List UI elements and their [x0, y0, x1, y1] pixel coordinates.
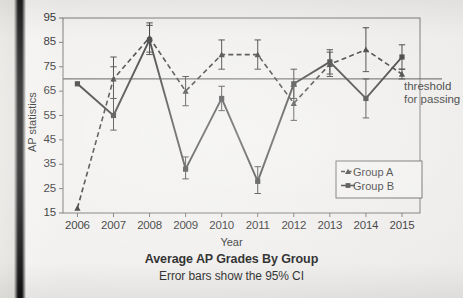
- data-point-marker: [363, 96, 368, 101]
- data-point-marker: [363, 47, 369, 53]
- legend-marker: [346, 183, 351, 188]
- x-tick-label: 2008: [130, 219, 170, 231]
- data-point-marker: [327, 59, 332, 64]
- threshold-annotation-line-2: for passing: [404, 93, 460, 106]
- data-point-marker: [219, 96, 224, 101]
- data-point-marker: [147, 37, 152, 42]
- x-tick-label: 2011: [238, 219, 278, 231]
- series-line-group-b: [77, 40, 402, 181]
- x-axis-title: Year: [0, 236, 463, 248]
- x-tick-label: 2006: [57, 219, 97, 231]
- x-tick-label: 2009: [166, 219, 206, 231]
- data-point-marker: [291, 81, 296, 86]
- data-point-marker: [255, 179, 260, 184]
- chart-title: Average AP Grades By Group: [0, 252, 463, 266]
- y-tick-label: 15: [30, 206, 56, 218]
- y-tick-label: 25: [30, 182, 56, 194]
- legend-label-group-b: Group B: [353, 180, 394, 192]
- chart-subtitle: Error bars show the 95% CI: [0, 269, 463, 283]
- x-tick-label: 2014: [346, 219, 386, 231]
- y-axis-title: AP statistics: [26, 92, 38, 152]
- x-tick-label: 2010: [202, 219, 242, 231]
- x-tick-label: 2012: [274, 219, 314, 231]
- y-tick-label: 75: [30, 60, 56, 72]
- y-tick-label: 85: [30, 35, 56, 47]
- data-point-marker: [75, 81, 80, 86]
- y-tick-label: 35: [30, 157, 56, 169]
- data-point-marker: [183, 167, 188, 172]
- x-tick-label: 2013: [310, 219, 350, 231]
- threshold-annotation-line-1: threshold: [404, 80, 451, 93]
- x-tick-label: 2007: [93, 219, 133, 231]
- data-point-marker: [111, 113, 116, 118]
- chart-figure: 152535455565758595 200620072008200920102…: [0, 0, 463, 298]
- x-tick-label: 2015: [382, 219, 422, 231]
- data-point-marker: [74, 205, 80, 211]
- legend-label-group-a: Group A: [353, 166, 393, 178]
- data-point-marker: [399, 54, 404, 59]
- y-tick-label: 95: [30, 11, 56, 23]
